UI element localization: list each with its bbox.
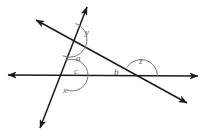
angle-label-z: z: [139, 57, 143, 66]
angle-arc-x: [66, 75, 88, 91]
angle-label-x: x: [63, 86, 67, 95]
angle-arc-a: [63, 48, 85, 57]
diagonal-line: [36, 20, 187, 103]
angle-label-b: b: [114, 68, 119, 77]
geometry-canvas: [0, 0, 206, 139]
angle-label-c: c: [74, 67, 78, 76]
angle-label-a: a: [76, 54, 81, 63]
geometry-figure: y a c x b z: [0, 0, 206, 139]
horizontal-line: [8, 75, 198, 76]
angle-label-y: y: [85, 28, 89, 37]
